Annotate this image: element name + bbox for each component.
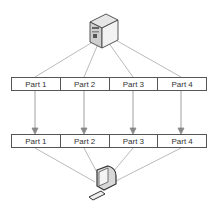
server-parts-row: Part 1 Part 2 Part 3 Part 4: [11, 77, 207, 91]
server-part-1: Part 1: [12, 78, 61, 90]
server-part-3: Part 3: [110, 78, 159, 90]
server-part-4: Part 4: [158, 78, 206, 90]
client-parts-row: Part 1 Part 2 Part 3 Part 4: [11, 134, 207, 148]
connector-lines: [0, 0, 219, 211]
transfer-arrows: [32, 91, 184, 134]
client-part-4: Part 4: [158, 135, 206, 147]
server-part-2: Part 2: [61, 78, 110, 90]
diagram-canvas: Part 1 Part 2 Part 3 Part 4 Part 1 Part …: [0, 0, 219, 211]
computer-icon: [89, 166, 116, 200]
client-part-3: Part 3: [110, 135, 159, 147]
client-part-1: Part 1: [12, 135, 61, 147]
client-part-2: Part 2: [61, 135, 110, 147]
server-icon: [90, 14, 118, 48]
